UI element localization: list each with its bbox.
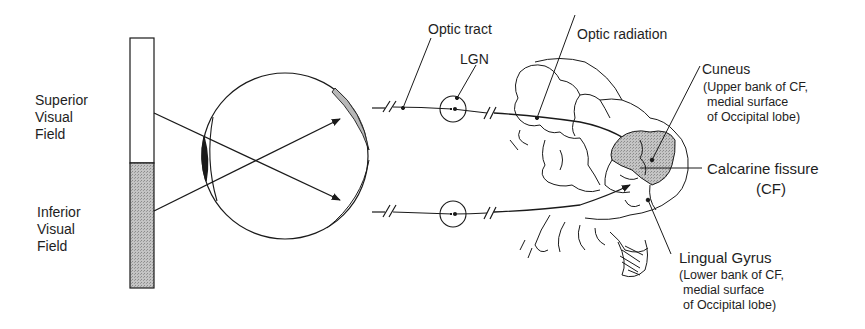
optic-radiation-leader (537, 15, 575, 118)
inferior-visual-field-label: Inferior Visual Field (37, 204, 81, 255)
lingual-gyrus-title: Lingual Gyrus (679, 249, 772, 266)
cuneus-region (611, 131, 675, 185)
label-line: medial surface (703, 95, 808, 110)
lingual-leader (648, 200, 671, 254)
label-line: Superior (35, 92, 88, 109)
label-line: of Occipital lobe) (679, 298, 784, 313)
label-line: (Upper bank of CF, (703, 80, 808, 95)
label-line: (Lower bank of CF, (679, 268, 784, 283)
label-line: Field (37, 238, 81, 255)
inferior-field-segment (130, 163, 154, 288)
cuneus-description: (Upper bank of CF, medial surface of Occ… (703, 80, 808, 125)
optic-tract-label: Optic tract (428, 21, 492, 38)
visual-field-bar (130, 38, 154, 288)
label-line: Inferior (37, 204, 81, 221)
lingual-gyrus-description: (Lower bank of CF, medial surface of Occ… (679, 268, 784, 313)
superior-visual-field-label: Superior Visual Field (35, 92, 88, 143)
label-line: Visual (35, 109, 88, 126)
calcarine-fissure-label: Calcarine fissure (707, 160, 819, 177)
optic-radiation-label: Optic radiation (577, 26, 667, 43)
break-mark-icon (383, 205, 396, 217)
label-line: of Occipital lobe) (703, 110, 808, 125)
optic-tract-leader (403, 38, 431, 108)
lgn-leader (457, 65, 476, 98)
lgn-label: LGN (460, 51, 489, 68)
superior-field-segment (130, 38, 154, 163)
calcarine-abbr-label: (CF) (756, 180, 786, 197)
upper-optic-pathway (372, 96, 645, 154)
cuneus-leader (652, 66, 700, 160)
visual-pathway-diagram: Superior Visual Field Inferior Visual Fi… (0, 0, 865, 329)
eye (154, 73, 369, 239)
cuneus-title: Cuneus (702, 61, 750, 78)
label-line: medial surface (679, 283, 784, 298)
label-line: Visual (37, 221, 81, 238)
label-line: Field (35, 126, 88, 143)
